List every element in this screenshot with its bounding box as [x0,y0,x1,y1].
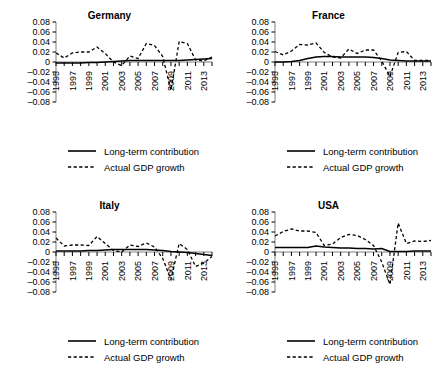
series-long-term-contribution [275,57,431,63]
x-tick-label: 2007 [369,71,379,91]
x-tick-label: 2013 [418,261,428,281]
figure-panel-grid: Germany0.080.060.040.020–0.02–0.04–0.06–… [0,0,438,379]
chart-panel-germany: Germany0.080.060.040.020–0.02–0.04–0.06–… [0,0,219,189]
x-tick-label: 2005 [133,71,143,91]
x-tick-label: 2007 [150,71,160,91]
y-tick-label: 0 [45,57,50,67]
y-tick-label: –0.06 [246,277,269,287]
chart-panel-italy: Italy0.080.060.040.020–0.02–0.04–0.06–0.… [0,190,219,379]
x-tick-label: 2007 [369,261,379,281]
x-tick-label: 1999 [84,71,94,91]
plot-area: 0.080.060.040.020–0.02–0.04–0.06–0.08199… [219,190,438,379]
y-tick-label: 0.04 [32,37,50,47]
x-tick-label: 2013 [199,71,209,91]
x-tick-label: 1999 [303,71,313,91]
x-tick-label: 2001 [100,261,110,281]
x-tick-label: 1995 [270,261,280,281]
x-tick-label: 2001 [319,261,329,281]
x-tick-label: 2001 [100,71,110,91]
y-tick-label: –0.08 [27,97,50,107]
y-tick-label: 0 [45,247,50,257]
y-tick-label: –0.02 [246,257,269,267]
series-long-term-contribution [275,246,431,252]
y-tick-label: 0.06 [251,217,269,227]
plot-area: 0.080.060.040.020–0.02–0.04–0.06–0.08199… [0,190,219,379]
x-tick-label: 1995 [51,71,61,91]
legend-label-long-term-contribution: Long-term contribution [104,336,199,347]
x-tick-label: 1997 [287,261,297,281]
x-tick-label: 1997 [287,71,297,91]
y-tick-label: 0.06 [32,27,50,37]
x-tick-label: 2013 [418,71,428,91]
legend-label-actual-gdp-growth: Actual GDP growth [323,162,404,173]
chart-panel-france: France0.080.060.040.020–0.02–0.04–0.06–0… [219,0,438,189]
y-tick-label: –0.04 [246,267,269,277]
y-tick-label: –0.04 [27,267,50,277]
y-tick-label: 0.04 [32,227,50,237]
y-tick-label: –0.06 [246,87,269,97]
x-tick-label: 2005 [133,261,143,281]
x-tick-label: 2003 [336,261,346,281]
x-tick-label: 1995 [270,71,280,91]
x-tick-label: 2005 [352,261,362,281]
x-tick-label: 2003 [117,261,127,281]
legend-label-actual-gdp-growth: Actual GDP growth [104,162,185,173]
y-tick-label: 0.02 [251,237,269,247]
y-tick-label: –0.06 [27,87,50,97]
y-tick-label: 0.02 [32,237,50,247]
x-tick-label: 2011 [183,71,193,90]
y-tick-label: –0.08 [27,287,50,297]
x-tick-label: 2001 [319,71,329,91]
y-tick-label: 0.06 [251,27,269,37]
x-tick-label: 2005 [352,71,362,91]
y-tick-label: 0.08 [251,207,269,217]
legend-label-actual-gdp-growth: Actual GDP growth [323,352,404,363]
y-tick-label: 0.08 [32,17,50,27]
y-tick-label: –0.04 [246,77,269,87]
x-tick-label: 2009 [385,261,395,281]
x-tick-label: 1997 [68,71,78,91]
x-tick-label: 2007 [150,261,160,281]
y-tick-label: 0.02 [32,47,50,57]
y-tick-label: –0.02 [27,67,50,77]
y-tick-label: –0.08 [246,287,269,297]
y-tick-label: –0.08 [246,97,269,107]
x-tick-label: 1997 [68,261,78,281]
x-tick-label: 2003 [117,71,127,91]
y-tick-label: 0.08 [251,17,269,27]
y-tick-label: 0.04 [251,37,269,47]
x-tick-label: 1999 [84,261,94,281]
x-tick-label: 1999 [303,261,313,281]
legend-label-actual-gdp-growth: Actual GDP growth [104,352,185,363]
plot-area: 0.080.060.040.020–0.02–0.04–0.06–0.08199… [219,0,438,189]
x-tick-label: 2011 [183,261,193,280]
legend-label-long-term-contribution: Long-term contribution [323,146,418,157]
legend-label-long-term-contribution: Long-term contribution [104,146,199,157]
y-tick-label: –0.02 [246,67,269,77]
y-tick-label: –0.06 [27,277,50,287]
y-tick-label: 0.08 [32,207,50,217]
y-tick-label: 0.06 [32,217,50,227]
y-tick-label: 0 [264,57,269,67]
x-tick-label: 1995 [51,261,61,281]
y-tick-label: –0.04 [27,77,50,87]
x-tick-label: 2011 [402,261,412,280]
y-tick-label: 0.02 [251,47,269,57]
x-tick-label: 2013 [199,261,209,281]
y-tick-label: 0.04 [251,227,269,237]
legend-label-long-term-contribution: Long-term contribution [323,336,418,347]
chart-panel-usa: USA0.080.060.040.020–0.02–0.04–0.06–0.08… [219,190,438,379]
y-tick-label: –0.02 [27,257,50,267]
x-tick-label: 2003 [336,71,346,91]
y-tick-label: 0 [264,247,269,257]
plot-area: 0.080.060.040.020–0.02–0.04–0.06–0.08199… [0,0,219,189]
x-tick-label: 2011 [402,71,412,90]
